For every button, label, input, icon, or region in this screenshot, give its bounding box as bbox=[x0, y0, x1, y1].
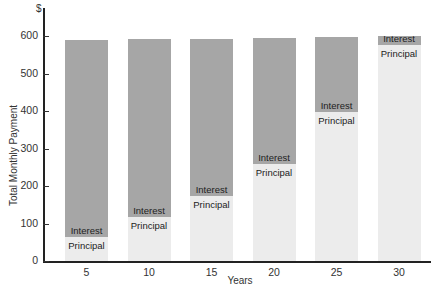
x-tick-label: 10 bbox=[128, 266, 171, 278]
x-tick-label: 20 bbox=[253, 266, 296, 278]
principal-segment bbox=[378, 45, 421, 261]
interest-label: Interest bbox=[65, 225, 108, 236]
y-tick bbox=[43, 261, 49, 262]
y-tick-label: 400 bbox=[10, 104, 38, 116]
y-tick-label: 300 bbox=[10, 142, 38, 154]
x-tick-label: 30 bbox=[378, 266, 421, 278]
interest-label: Interest bbox=[253, 152, 296, 163]
y-tick bbox=[43, 74, 49, 75]
y-tick bbox=[43, 149, 49, 150]
x-tick-label: 15 bbox=[190, 266, 233, 278]
x-axis bbox=[43, 261, 431, 263]
principal-label: Principal bbox=[190, 199, 233, 210]
interest-segment bbox=[190, 39, 233, 197]
y-tick-label: 100 bbox=[10, 217, 38, 229]
x-tick-label: 5 bbox=[65, 266, 108, 278]
y-tick-label: 500 bbox=[10, 67, 38, 79]
y-tick bbox=[43, 36, 49, 37]
y-tick bbox=[43, 186, 49, 187]
principal-segment bbox=[253, 164, 296, 261]
interest-label: Interest bbox=[190, 184, 233, 195]
principal-segment bbox=[315, 112, 358, 261]
bar-15-years: InterestPrincipal bbox=[190, 39, 233, 261]
bar-30-years: InterestPrincipal bbox=[378, 36, 421, 261]
principal-label: Principal bbox=[65, 240, 108, 251]
x-tick-label: 25 bbox=[315, 266, 358, 278]
principal-label: Principal bbox=[378, 48, 421, 59]
y-tick-label: 200 bbox=[10, 179, 38, 191]
y-tick-label: 600 bbox=[10, 29, 38, 41]
y-tick bbox=[43, 111, 49, 112]
interest-segment bbox=[65, 40, 108, 237]
y-tick-label: 0 bbox=[10, 254, 38, 266]
principal-label: Principal bbox=[315, 115, 358, 126]
y-tick bbox=[43, 224, 49, 225]
interest-label: Interest bbox=[315, 100, 358, 111]
principal-label: Principal bbox=[128, 220, 171, 231]
y-unit-label: $ bbox=[36, 3, 42, 14]
bar-10-years: InterestPrincipal bbox=[128, 39, 171, 261]
principal-label: Principal bbox=[253, 167, 296, 178]
interest-label: Interest bbox=[378, 33, 421, 44]
bar-20-years: InterestPrincipal bbox=[253, 38, 296, 261]
interest-segment bbox=[128, 39, 171, 216]
bar-25-years: InterestPrincipal bbox=[315, 37, 358, 261]
interest-label: Interest bbox=[128, 205, 171, 216]
interest-segment bbox=[253, 38, 296, 164]
bar-5-years: InterestPrincipal bbox=[65, 40, 108, 261]
